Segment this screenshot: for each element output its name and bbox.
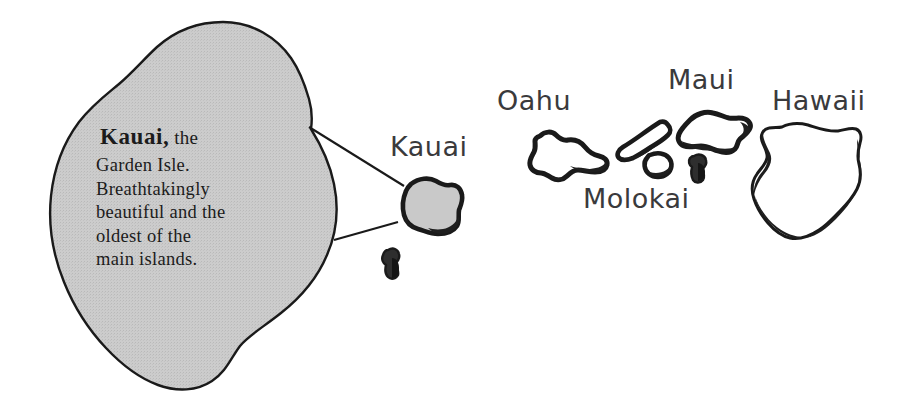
enlarged-kauai-shape bbox=[50, 22, 336, 390]
island-lanai bbox=[645, 153, 673, 177]
island-hawaii bbox=[752, 124, 861, 239]
island-kahoolawe bbox=[689, 155, 706, 183]
callout-line-lower bbox=[334, 222, 398, 240]
islands-illustration-svg bbox=[0, 0, 909, 416]
island-oahu bbox=[530, 132, 607, 180]
island-niihau bbox=[382, 249, 399, 279]
hawaiian-islands-figure: Kauai, the Garden Isle. Breathtakingly b… bbox=[0, 0, 909, 416]
island-maui bbox=[678, 112, 750, 152]
island-kauai bbox=[403, 179, 462, 234]
